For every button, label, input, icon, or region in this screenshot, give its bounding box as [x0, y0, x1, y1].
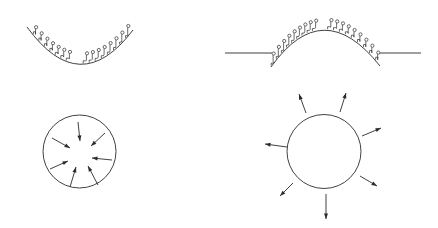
surfactant-molecule	[61, 48, 66, 58]
surfactant-molecules-concave	[33, 24, 130, 63]
force-arrow	[92, 157, 112, 161]
force-arrow	[50, 161, 68, 169]
surfactant-molecule	[334, 20, 339, 30]
surfactant-molecules-convex	[271, 19, 380, 66]
force-arrow	[324, 194, 328, 219]
inward-forces-panel	[43, 115, 116, 188]
surfactant-molecule	[328, 19, 333, 30]
surfactant-molecule	[302, 23, 307, 36]
surfactant-molecule	[89, 51, 94, 63]
surfactant-molecule	[370, 44, 374, 53]
surfactant-molecule	[39, 32, 43, 41]
force-arrow	[77, 122, 81, 141]
force-arrow	[280, 183, 293, 196]
convex-interface-panel	[225, 19, 421, 68]
force-arrow	[70, 167, 76, 187]
surfactant-molecule	[50, 42, 55, 51]
surfactant-interface-diagram	[0, 0, 438, 228]
force-arrow	[362, 128, 381, 136]
force-arrow	[340, 93, 346, 112]
concave-interface-panel	[27, 24, 133, 64]
force-arrow	[299, 94, 306, 113]
force-arrow	[88, 166, 98, 185]
surfactant-molecule	[33, 26, 37, 35]
force-arrow	[360, 176, 377, 186]
convex-interface-curve	[271, 30, 380, 67]
surfactant-molecule	[55, 45, 60, 55]
surfactant-molecule	[312, 19, 317, 31]
force-arrow	[52, 138, 70, 148]
droplet-circle-outward	[287, 115, 361, 189]
surfactant-molecule	[376, 51, 380, 60]
outward-force-arrows	[265, 93, 381, 219]
surfactant-molecule	[120, 31, 124, 45]
surfactant-molecule	[351, 28, 356, 37]
surfactant-molecule	[44, 37, 49, 46]
force-arrow	[265, 143, 287, 147]
inward-force-arrows	[50, 122, 112, 187]
surfactant-molecule	[358, 33, 363, 42]
surfactant-molecule	[339, 22, 344, 32]
droplet-circle-inward	[43, 115, 116, 188]
force-arrow	[91, 133, 105, 146]
surfactant-molecule	[95, 48, 100, 60]
surfactant-molecule	[345, 25, 350, 35]
surfactant-molecule	[307, 21, 312, 33]
surfactant-molecule	[66, 50, 71, 60]
surfactant-molecule	[83, 52, 88, 64]
surfactant-molecule	[364, 38, 369, 47]
outward-forces-panel	[265, 93, 381, 219]
